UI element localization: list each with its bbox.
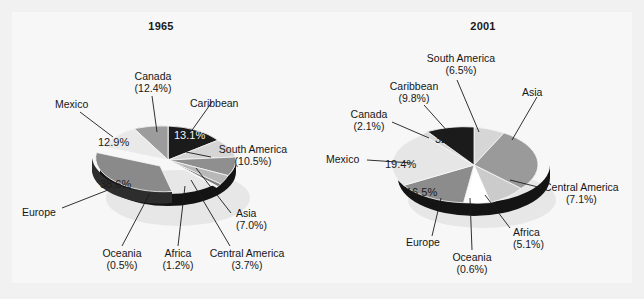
label-oceania-1965: Oceania (0.5%) — [93, 248, 151, 271]
label-canada-2001: Canada (2.1%) — [344, 109, 394, 132]
label-asia-1965: Asia (7.0%) — [236, 208, 267, 231]
label-central-america-1965: Central America (3.7%) — [203, 248, 291, 271]
pie-chart-1965: 1965 — [0, 0, 322, 299]
label-europe-2001: Europe — [406, 237, 440, 249]
value-europe-2001: 16.5% — [406, 186, 437, 198]
label-south-america-2001: South America (6.5%) — [420, 53, 502, 76]
label-south-america-1965: South America (10.5%) — [212, 144, 294, 167]
value-caribbean-1965: 13.1% — [174, 129, 205, 141]
figure-canvas: 1965 — [0, 0, 644, 299]
value-europe-1965: 38.6% — [100, 178, 131, 190]
label-central-america-2001: Central America (7.1%) — [544, 182, 619, 205]
label-mexico-2001: Mexico — [326, 154, 359, 166]
label-europe-1965: Europe — [22, 207, 56, 219]
value-mexico-1965: 12.9% — [98, 136, 129, 148]
label-canada-1965: Canada (12.4%) — [125, 71, 181, 94]
label-oceania-2001: Oceania (0.6%) — [444, 252, 500, 275]
label-asia-2001: Asia — [522, 87, 542, 99]
pie-chart-2001: 2001 — [322, 0, 644, 299]
value-asia-2001: 32.9% — [435, 133, 466, 145]
value-mexico-2001: 19.4% — [385, 158, 416, 170]
label-caribbean-2001: Caribbean (9.8%) — [385, 81, 443, 104]
label-africa-2001: Africa (5.1%) — [513, 227, 544, 250]
label-mexico-1965: Mexico — [55, 99, 88, 111]
label-africa-1965: Africa (1.2%) — [153, 248, 203, 271]
label-caribbean-1965: Caribbean — [190, 98, 238, 110]
